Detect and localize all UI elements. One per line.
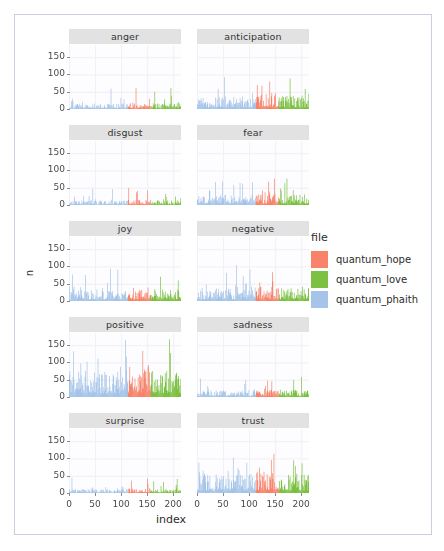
x-tick-label: 50 [217, 499, 228, 509]
y-axis-row-2: 050100150 [33, 237, 65, 301]
x-tick-mark [223, 493, 224, 496]
y-tick-mark [67, 170, 70, 171]
y-tick-label: 100 [48, 164, 65, 174]
facet-strip-label: disgust [69, 125, 181, 140]
x-tick-label: 150 [139, 499, 156, 509]
facet-panel-surprise [69, 429, 181, 493]
legend-item-label: quantum_phaith [336, 294, 418, 305]
x-tick-mark [173, 493, 174, 496]
y-tick-label: 50 [54, 182, 65, 192]
facet-joy: joy [69, 221, 181, 301]
y-tick-mark [67, 476, 70, 477]
facet-strip-label: trust [197, 413, 309, 428]
x-tick-label: 100 [240, 499, 257, 509]
legend: file quantum_hopequantum_lovequantum_pha… [311, 231, 429, 311]
legend-item-label: quantum_love [336, 274, 407, 285]
x-tick-mark [301, 493, 302, 496]
facet-anticipation: anticipation [197, 29, 309, 109]
x-tick-label: 200 [293, 499, 310, 509]
y-tick-mark [67, 57, 70, 58]
y-tick-label: 100 [48, 260, 65, 270]
y-tick-label: 150 [48, 339, 65, 349]
y-tick-label: 50 [54, 86, 65, 96]
legend-swatch-icon [311, 271, 328, 288]
x-tick-label: 0 [194, 499, 200, 509]
y-tick-mark [67, 397, 70, 398]
y-tick-label: 100 [48, 356, 65, 366]
x-axis-col-1: 050100150200 [197, 493, 309, 513]
x-tick-mark [95, 493, 96, 496]
chart-frame: n index angeranticipationdisgustfearjoyn… [14, 14, 432, 535]
y-tick-mark [67, 74, 70, 75]
x-tick-mark [69, 493, 70, 496]
facet-panel-negative [197, 237, 309, 301]
facet-strip-label: anticipation [197, 29, 309, 44]
facet-strip-label: positive [69, 317, 181, 332]
y-tick-mark [67, 284, 70, 285]
y-tick-label: 150 [48, 147, 65, 157]
facet-positive: positive [69, 317, 181, 397]
y-tick-mark [67, 205, 70, 206]
facet-surprise: surprise [69, 413, 181, 493]
facet-strip-label: anger [69, 29, 181, 44]
y-tick-label: 150 [48, 243, 65, 253]
y-tick-mark [67, 266, 70, 267]
facet-strip-label: sadness [197, 317, 309, 332]
y-tick-label: 150 [48, 51, 65, 61]
facet-trust: trust [197, 413, 309, 493]
y-tick-mark [67, 92, 70, 93]
legend-title: file [311, 231, 429, 244]
legend-item-quantum_hope: quantum_hope [311, 251, 429, 268]
y-tick-label: 150 [48, 435, 65, 445]
x-tick-label: 100 [112, 499, 129, 509]
y-tick-label: 50 [54, 278, 65, 288]
y-tick-label: 0 [59, 487, 65, 497]
y-tick-mark [67, 362, 70, 363]
legend-swatch-icon [311, 291, 328, 308]
facet-panel-sadness [197, 333, 309, 397]
x-tick-mark [249, 493, 250, 496]
x-tick-label: 200 [165, 499, 182, 509]
x-tick-mark [121, 493, 122, 496]
y-tick-mark [67, 301, 70, 302]
facet-negative: negative [197, 221, 309, 301]
facet-panel-anger [69, 45, 181, 109]
y-tick-label: 50 [54, 470, 65, 480]
y-tick-label: 0 [59, 295, 65, 305]
y-tick-mark [67, 153, 70, 154]
y-tick-mark [67, 188, 70, 189]
legend-item-label: quantum_hope [336, 254, 411, 265]
y-tick-mark [67, 109, 70, 110]
y-axis-row-3: 050100150 [33, 333, 65, 397]
x-tick-mark [147, 493, 148, 496]
x-tick-label: 150 [267, 499, 284, 509]
facet-panel-fear [197, 141, 309, 205]
x-tick-label: 0 [66, 499, 72, 509]
y-axis-row-1: 050100150 [33, 141, 65, 205]
facet-strip-label: negative [197, 221, 309, 236]
facet-disgust: disgust [69, 125, 181, 205]
facet-panel-joy [69, 237, 181, 301]
facet-sadness: sadness [197, 317, 309, 397]
facet-chart: n index angeranticipationdisgustfearjoyn… [15, 15, 433, 536]
y-tick-label: 0 [59, 199, 65, 209]
y-axis-row-4: 050100150 [33, 429, 65, 493]
legend-swatch-icon [311, 251, 328, 268]
x-tick-label: 50 [89, 499, 100, 509]
facet-anger: anger [69, 29, 181, 109]
facet-panel-positive [69, 333, 181, 397]
facet-strip-label: surprise [69, 413, 181, 428]
x-tick-mark [275, 493, 276, 496]
y-tick-mark [67, 345, 70, 346]
x-tick-mark [197, 493, 198, 496]
y-axis-row-0: 050100150 [33, 45, 65, 109]
facet-panel-trust [197, 429, 309, 493]
x-axis-title: index [55, 513, 287, 526]
facet-panel-anticipation [197, 45, 309, 109]
legend-item-quantum_love: quantum_love [311, 271, 429, 288]
facet-strip-label: joy [69, 221, 181, 236]
y-tick-mark [67, 441, 70, 442]
y-tick-label: 0 [59, 103, 65, 113]
facet-strip-label: fear [197, 125, 309, 140]
x-axis-col-0: 050100150200 [69, 493, 181, 513]
